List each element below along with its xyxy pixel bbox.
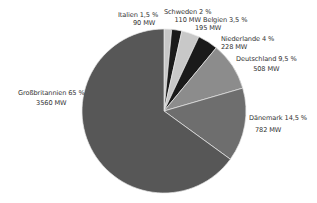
label-daenemark: Dänemark 14,5 % 782 MW: [249, 114, 307, 134]
label-grossbritannien-mw: 3560 MW: [18, 99, 85, 107]
label-daenemark-mw: 782 MW: [249, 126, 307, 134]
label-deutschland-percent: Deutschland 9,5 %: [236, 55, 297, 63]
label-niederlande-mw: 228 MW: [221, 43, 274, 51]
pie-slices: [82, 29, 246, 193]
label-daenemark-percent: Dänemark 14,5 %: [249, 114, 307, 122]
label-belgien: Belgien 3,5 %: [203, 16, 247, 24]
label-italien: Italien 1,5 % 90 MW: [118, 11, 158, 27]
label-belgien-mw: 195 MW: [195, 24, 221, 32]
label-grossbritannien: Großbritannien 65 % 3560 MW: [18, 89, 85, 107]
label-grossbritannien-percent: Großbritannien 65 %: [18, 89, 85, 97]
label-belgien-percent: Belgien 3,5 %: [203, 16, 247, 24]
label-deutschland-mw: 508 MW: [236, 65, 297, 73]
label-belgien-mw-wrap: 195 MW: [195, 24, 221, 32]
label-deutschland: Deutschland 9,5 % 508 MW: [236, 55, 297, 73]
label-schweden-percent: Schweden 2 %: [164, 8, 211, 16]
label-italien-mw: 90 MW: [118, 19, 158, 27]
label-niederlande: Niederlande 4 % 228 MW: [221, 35, 274, 51]
label-niederlande-percent: Niederlande 4 %: [221, 35, 274, 43]
label-italien-percent: Italien 1,5 %: [118, 11, 158, 19]
